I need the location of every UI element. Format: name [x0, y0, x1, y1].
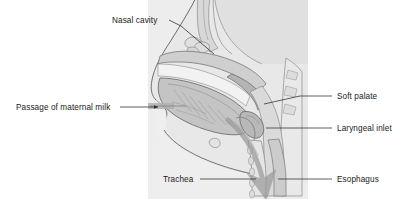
sagittal-section-illustration: Nasal cavity Passage of maternal milk So…: [0, 0, 416, 199]
label-trachea: Trachea: [163, 175, 194, 184]
label-passage-of-maternal-milk: Passage of maternal milk: [16, 103, 111, 112]
label-esophagus: Esophagus: [337, 175, 379, 184]
label-soft-palate: Soft palate: [337, 92, 378, 101]
label-laryngeal-inlet: Laryngeal inlet: [337, 124, 392, 133]
anatomical-figure: Nasal cavity Passage of maternal milk So…: [0, 0, 416, 199]
label-nasal-cavity: Nasal cavity: [112, 16, 158, 25]
